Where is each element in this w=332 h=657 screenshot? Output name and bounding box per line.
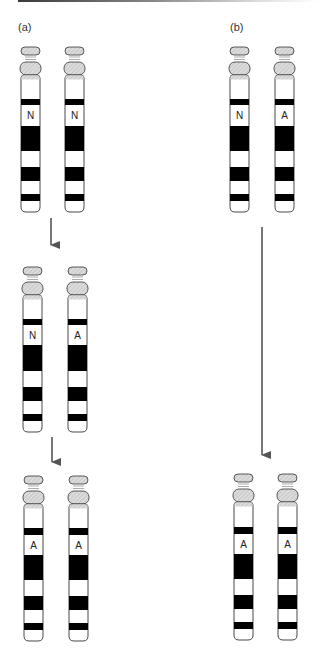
allele-label: A bbox=[281, 110, 288, 121]
chromosome-band bbox=[24, 555, 43, 580]
short-arm bbox=[23, 491, 44, 504]
chromosome-band bbox=[69, 528, 88, 535]
chromosome-band bbox=[21, 194, 40, 201]
short-arm bbox=[233, 489, 254, 502]
chromosome-band bbox=[275, 194, 294, 201]
chromosome-band bbox=[24, 528, 43, 535]
chromosome-band bbox=[21, 99, 40, 105]
chromosome-band bbox=[278, 595, 297, 609]
chromosome-band bbox=[234, 595, 253, 609]
short-arm bbox=[274, 62, 295, 75]
chromosome-a-1-right: N bbox=[64, 47, 85, 212]
chromosome-band bbox=[68, 414, 87, 421]
chromosome-band bbox=[278, 527, 297, 534]
chromosomes: NNNAAANAAA bbox=[20, 47, 298, 641]
chromosome-band bbox=[65, 99, 84, 105]
chromosome-band bbox=[68, 345, 87, 371]
chromosome-band bbox=[234, 554, 253, 579]
allele-label: N bbox=[71, 110, 78, 121]
chromosome-band bbox=[23, 319, 42, 325]
chromosome-b-1-left: N bbox=[229, 47, 250, 212]
chromosome-b-1-right: A bbox=[274, 47, 295, 212]
chromosome-band bbox=[234, 622, 253, 629]
chromosome-band bbox=[23, 345, 42, 371]
chromosome-band bbox=[69, 623, 88, 630]
chromosome-band bbox=[275, 126, 294, 151]
satellite-icon bbox=[275, 47, 294, 55]
chromosome-band bbox=[21, 167, 40, 181]
satellite-icon bbox=[278, 474, 297, 482]
allele-label: N bbox=[236, 110, 243, 121]
chromosome-band bbox=[278, 554, 297, 579]
chromosome-band bbox=[23, 414, 42, 421]
satellite-icon bbox=[23, 267, 42, 275]
chromosome-band bbox=[230, 167, 249, 181]
chromosome-band bbox=[234, 527, 253, 534]
satellite-icon bbox=[68, 267, 87, 275]
chromosome-band bbox=[65, 167, 84, 181]
allele-label: A bbox=[284, 539, 291, 550]
chromosome-b-2-left: A bbox=[233, 474, 254, 640]
satellite-icon bbox=[24, 476, 43, 484]
chromosome-band bbox=[68, 387, 87, 401]
chromosome-a-3-right: A bbox=[68, 476, 89, 641]
chromosome-band bbox=[230, 194, 249, 201]
short-arm bbox=[68, 491, 89, 504]
chromosome-diagram: NNNAAANAAA bbox=[0, 0, 332, 657]
chromosome-band bbox=[21, 126, 40, 151]
short-arm bbox=[64, 62, 85, 75]
chromosome-a-3-left: A bbox=[23, 476, 44, 641]
chromosome-a-1-left: N bbox=[20, 47, 41, 212]
chromosome-a-2-left: N bbox=[22, 267, 43, 432]
chromosome-band bbox=[278, 622, 297, 629]
chromosome-band bbox=[69, 596, 88, 610]
chromosome-band bbox=[24, 623, 43, 630]
allele-label: A bbox=[74, 330, 81, 341]
chromosome-band bbox=[275, 99, 294, 105]
chromosome-band bbox=[230, 126, 249, 151]
satellite-icon bbox=[21, 47, 40, 55]
allele-label: A bbox=[75, 540, 82, 551]
allele-label: N bbox=[29, 330, 36, 341]
chromosome-a-2-right: A bbox=[67, 267, 88, 432]
short-arm bbox=[20, 62, 41, 75]
allele-label: N bbox=[27, 110, 34, 121]
chromosome-band bbox=[230, 99, 249, 105]
satellite-icon bbox=[234, 474, 253, 482]
allele-label: A bbox=[240, 539, 247, 550]
allele-label: A bbox=[30, 540, 37, 551]
short-arm bbox=[277, 489, 298, 502]
short-arm bbox=[229, 62, 250, 75]
short-arm bbox=[22, 282, 43, 295]
chromosome-band bbox=[68, 319, 87, 325]
satellite-icon bbox=[69, 476, 88, 484]
chromosome-band bbox=[65, 194, 84, 201]
short-arm bbox=[67, 282, 88, 295]
chromosome-band bbox=[69, 555, 88, 580]
chromosome-band bbox=[65, 126, 84, 151]
chromosome-band bbox=[23, 387, 42, 401]
chromosome-band bbox=[24, 596, 43, 610]
chromosome-b-2-right: A bbox=[277, 474, 298, 640]
satellite-icon bbox=[65, 47, 84, 55]
chromosome-band bbox=[275, 167, 294, 181]
satellite-icon bbox=[230, 47, 249, 55]
